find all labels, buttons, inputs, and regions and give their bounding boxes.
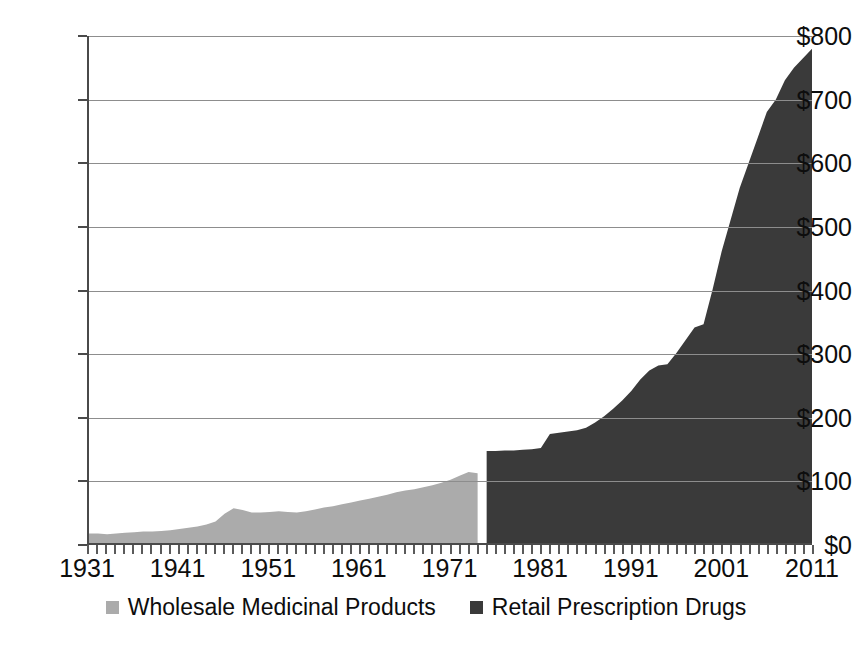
x-axis-tick-mark: [178, 545, 180, 554]
x-axis-tick-mark: [785, 545, 787, 554]
x-axis-tick-mark: [730, 545, 732, 554]
x-axis-tick-mark: [105, 545, 107, 554]
x-axis-tick-mark: [359, 545, 361, 554]
x-axis-tick-mark: [286, 545, 288, 554]
x-axis-tick-mark: [187, 545, 189, 554]
x-axis-tick-mark: [431, 545, 433, 554]
x-axis-tick-mark: [531, 545, 533, 554]
x-axis-tick-mark: [595, 545, 597, 554]
x-axis-tick-mark: [640, 545, 642, 554]
area-series: [89, 472, 478, 543]
x-axis-tick-mark: [277, 545, 279, 554]
x-axis-tick-mark: [422, 545, 424, 554]
x-axis-tick-mark: [132, 545, 134, 554]
gridline: [89, 36, 812, 37]
x-axis-tick-mark: [368, 545, 370, 554]
x-axis-tick-mark: [123, 545, 125, 554]
x-axis-tick-mark: [613, 545, 615, 554]
x-axis-tick-mark: [350, 545, 352, 554]
legend-entry[interactable]: Wholesale Medicinal Products: [106, 596, 436, 619]
x-axis-tick-mark: [440, 545, 442, 554]
x-axis-tick-mark: [549, 545, 551, 554]
y-axis-tick-mark: [78, 480, 87, 482]
x-axis-tick-mark: [604, 545, 606, 554]
x-axis-tick-mark: [495, 545, 497, 554]
y-axis-tick-mark: [78, 226, 87, 228]
x-axis-tick-mark: [649, 545, 651, 554]
x-axis-tick-mark: [513, 545, 515, 554]
x-axis-tick-mark: [232, 545, 234, 554]
plot-area: [87, 36, 812, 545]
x-axis-tick-mark: [712, 545, 714, 554]
x-axis-tick-mark: [386, 545, 388, 554]
chart-legend: Wholesale Medicinal ProductsRetail Presc…: [0, 596, 852, 619]
x-axis-tick-mark: [576, 545, 578, 554]
legend-label: Wholesale Medicinal Products: [128, 596, 436, 619]
x-axis-tick-mark: [395, 545, 397, 554]
x-axis-tick-mark: [377, 545, 379, 554]
x-axis-tick-mark: [540, 545, 542, 554]
x-axis-tick-mark: [332, 545, 334, 554]
x-axis-tick-mark: [812, 545, 814, 554]
x-axis-tick-mark: [96, 545, 98, 554]
x-axis-tick-label: 1971: [422, 556, 478, 581]
x-axis-tick-mark: [314, 545, 316, 554]
chart-page: $0$100$200$300$400$500$600$700$800 19311…: [0, 0, 852, 649]
x-axis-tick-label: 2001: [694, 556, 750, 581]
x-axis-tick-mark: [241, 545, 243, 554]
x-axis-tick-mark: [622, 545, 624, 554]
x-axis-tick-label: 2011: [785, 556, 839, 581]
x-axis-tick-mark: [295, 545, 297, 554]
x-axis-tick-label: 1991: [603, 556, 659, 581]
x-axis-tick-mark: [477, 545, 479, 554]
x-axis-tick-mark: [459, 545, 461, 554]
y-axis-tick-mark: [78, 99, 87, 101]
x-axis-tick-mark: [631, 545, 633, 554]
y-axis-tick-mark: [78, 417, 87, 419]
x-axis-tick-mark: [223, 545, 225, 554]
y-axis-tick-mark: [78, 544, 87, 546]
x-axis-tick-mark: [504, 545, 506, 554]
y-axis-tick-label: $700: [774, 87, 852, 112]
x-axis-tick-mark: [305, 545, 307, 554]
legend-label: Retail Prescription Drugs: [492, 596, 746, 619]
x-axis-tick-mark: [323, 545, 325, 554]
gridline: [89, 227, 812, 228]
x-axis-tick-mark: [758, 545, 760, 554]
x-axis-tick-mark: [259, 545, 261, 554]
gridline: [89, 291, 812, 292]
x-axis-tick-mark: [685, 545, 687, 554]
gridline: [89, 100, 812, 101]
y-axis-tick-mark: [78, 290, 87, 292]
x-axis-tick-label: 1961: [331, 556, 387, 581]
x-axis-tick-mark: [676, 545, 678, 554]
gridline: [89, 354, 812, 355]
legend-entry[interactable]: Retail Prescription Drugs: [470, 596, 746, 619]
x-axis-tick-mark: [694, 545, 696, 554]
x-axis-tick-mark: [196, 545, 198, 554]
gridline: [89, 163, 812, 164]
x-axis-tick-mark: [703, 545, 705, 554]
area-series: [487, 49, 812, 543]
x-axis-tick-label: 1951: [240, 556, 296, 581]
x-axis-tick-label: 1931: [59, 556, 115, 581]
x-axis-tick-mark: [658, 545, 660, 554]
x-axis-tick-mark: [803, 545, 805, 554]
x-axis-tick-mark: [522, 545, 524, 554]
y-axis-tick-label: $400: [774, 278, 852, 303]
y-axis-tick-label: $300: [774, 342, 852, 367]
x-axis-tick-mark: [667, 545, 669, 554]
x-axis-tick-mark: [413, 545, 415, 554]
x-axis-tick-mark: [87, 545, 89, 554]
x-axis-tick-mark: [558, 545, 560, 554]
x-axis-tick-mark: [567, 545, 569, 554]
x-axis-tick-mark: [749, 545, 751, 554]
legend-swatch-retail: [470, 601, 483, 614]
x-axis-tick-mark: [114, 545, 116, 554]
y-axis-tick-label: $200: [774, 405, 852, 430]
y-axis-tick-mark: [78, 162, 87, 164]
x-axis-tick-mark: [341, 545, 343, 554]
x-axis-tick-mark: [169, 545, 171, 554]
y-axis-tick-label: $500: [774, 214, 852, 239]
x-axis-tick-mark: [450, 545, 452, 554]
